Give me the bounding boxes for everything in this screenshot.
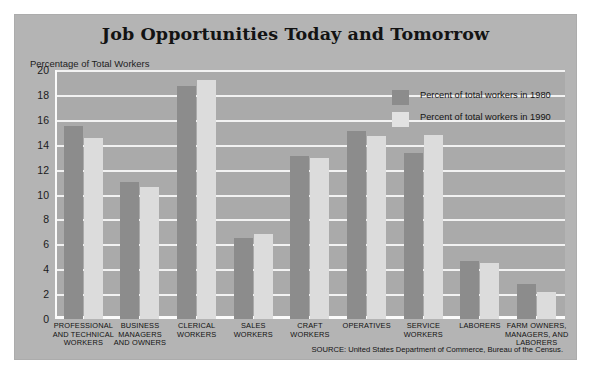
bar-group — [112, 70, 169, 319]
legend-item-1980: Percent of total workers in 1980 — [392, 88, 582, 110]
bar-1990 — [480, 263, 499, 319]
y-tick-10: 10 — [37, 189, 49, 201]
bar-1980 — [290, 156, 309, 319]
y-tick-12: 12 — [37, 164, 49, 176]
bar-1990 — [537, 292, 556, 319]
chart-legend: Percent of total workers in 1980 Percent… — [392, 88, 582, 132]
y-tick-8: 8 — [43, 213, 49, 225]
bar-group — [338, 70, 395, 319]
y-tick-16: 16 — [37, 114, 49, 126]
legend-label-1990: Percent of total workers in 1990 — [420, 112, 551, 122]
bar-1980 — [517, 284, 536, 319]
bar-1990 — [424, 135, 443, 319]
y-tick-4: 4 — [43, 263, 49, 275]
legend-label-1980: Percent of total workers in 1980 — [420, 90, 551, 100]
bar-1990 — [310, 158, 329, 319]
y-tick-20: 20 — [37, 64, 49, 76]
y-tick-2: 2 — [43, 288, 49, 300]
bar-1980 — [177, 86, 196, 319]
chart-panel: Job Opportunities Today and Tomorrow Per… — [14, 14, 577, 360]
legend-swatch-1980-icon — [392, 90, 409, 105]
bar-group — [225, 70, 282, 319]
bar-1980 — [404, 153, 423, 319]
bar-1990 — [140, 187, 159, 319]
category-label-line: WORKERS — [385, 331, 462, 340]
y-tick-6: 6 — [43, 238, 49, 250]
bar-group — [168, 70, 225, 319]
source-note: SOURCE: United States Department of Comm… — [311, 345, 563, 354]
category-label: FARM OWNERS,MANAGERS, ANDLABORERS — [498, 322, 575, 348]
bar-1980 — [120, 182, 139, 319]
y-tick-18: 18 — [37, 89, 49, 101]
bar-group — [282, 70, 339, 319]
chart-title: Job Opportunities Today and Tomorrow — [14, 24, 577, 44]
category-label-line: AND OWNERS — [101, 339, 178, 348]
bar-group — [55, 70, 112, 319]
bar-1980 — [234, 238, 253, 319]
legend-swatch-1990-icon — [392, 112, 409, 127]
chart-page: Job Opportunities Today and Tomorrow Per… — [0, 0, 591, 380]
bar-1990 — [254, 234, 273, 319]
bar-1990 — [367, 136, 386, 319]
bar-1990 — [84, 138, 103, 319]
y-tick-14: 14 — [37, 139, 49, 151]
legend-item-1990: Percent of total workers in 1990 — [392, 110, 582, 132]
bar-1980 — [64, 126, 83, 319]
bar-1980 — [347, 131, 366, 319]
bar-1990 — [197, 80, 216, 319]
category-label-line: WORKERS — [271, 331, 348, 340]
bar-1980 — [460, 261, 479, 320]
